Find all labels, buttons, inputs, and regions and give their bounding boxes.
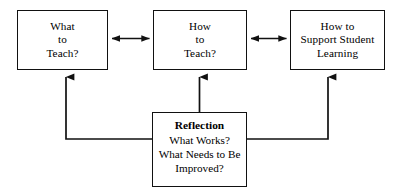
connector-reflection-to-support-learning [247, 77, 328, 139]
node-line: to [58, 33, 67, 46]
node-reflection: Reflection What Works? What Needs to Be … [152, 112, 247, 187]
reflection-heading: Reflection [175, 118, 224, 133]
node-line: How [189, 20, 211, 33]
node-how-to-teach: How to Teach? [153, 10, 247, 70]
node-line: Teach? [46, 47, 78, 60]
node-line: What Needs to Be [159, 147, 241, 161]
diagram-canvas: What to Teach? How to Teach? How to Supp… [0, 0, 398, 195]
node-line: to [196, 33, 205, 46]
node-line: Teach? [184, 47, 216, 60]
node-line: What Works? [169, 133, 230, 147]
node-support-student-learning: How to Support Student Learning [290, 10, 385, 70]
node-line: Support Student [301, 33, 375, 46]
node-line: What [50, 20, 75, 33]
connector-reflection-to-what-teach [66, 77, 152, 139]
node-line: How to [321, 20, 355, 33]
node-what-to-teach: What to Teach? [17, 10, 108, 70]
node-line: Learning [317, 47, 358, 60]
node-line: Improved? [175, 161, 223, 175]
